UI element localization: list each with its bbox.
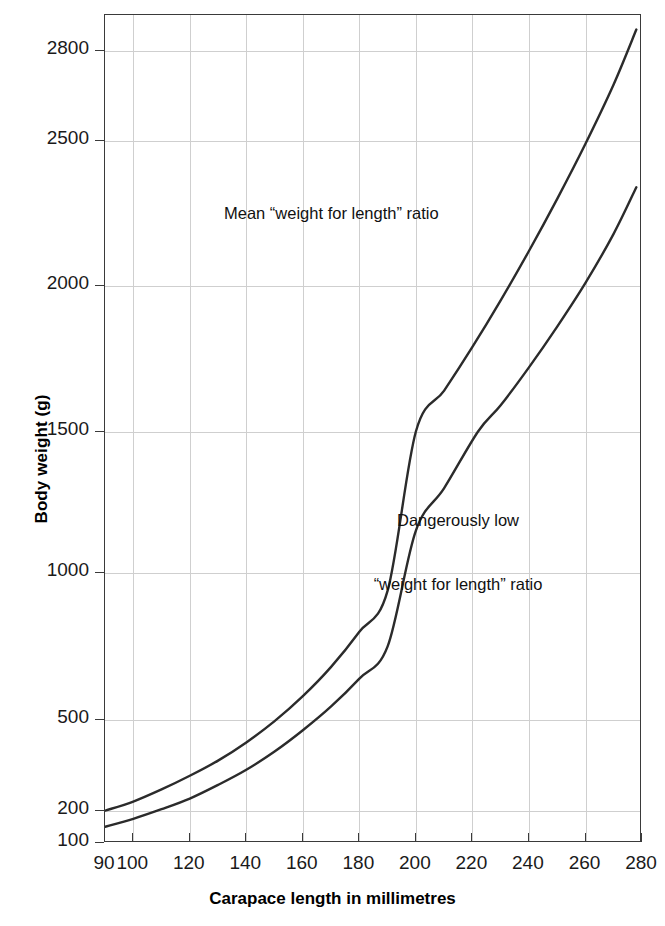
x-tick-label-120: 120 — [173, 852, 205, 874]
y-tick-1000 — [95, 572, 104, 573]
y-tick-label-2800: 2800 — [47, 37, 89, 59]
y-tick-label-1000: 1000 — [47, 559, 89, 581]
y-tick-500 — [95, 719, 104, 720]
y-tick-label-100: 100 — [57, 829, 89, 851]
y-tick-label-2000: 2000 — [47, 272, 89, 294]
x-tick-120 — [189, 833, 190, 842]
x-axis-title: Carapace length in millimetres — [0, 889, 665, 909]
annotation-low-line2: “weight for length” ratio — [374, 574, 543, 595]
x-tick-label-260: 260 — [569, 852, 601, 874]
curve-dangerously-low-ratio — [105, 187, 636, 827]
x-tick-label-90: 90 — [93, 852, 114, 874]
y-tick-label-1500: 1500 — [47, 418, 89, 440]
y-tick-label-2500: 2500 — [47, 127, 89, 149]
y-tick-2800 — [95, 50, 104, 51]
x-tick-240 — [528, 833, 529, 842]
y-tick-label-500: 500 — [57, 706, 89, 728]
y-tick-2000 — [95, 285, 104, 286]
annotation-low-line1: Dangerously low — [374, 510, 543, 531]
x-tick-260 — [585, 833, 586, 842]
x-tick-label-140: 140 — [229, 852, 261, 874]
y-axis-title: Body weight (g) — [32, 329, 52, 589]
x-tick-180 — [358, 833, 359, 842]
x-tick-label-160: 160 — [286, 852, 318, 874]
x-tick-160 — [302, 833, 303, 842]
x-tick-label-280: 280 — [625, 852, 657, 874]
plot-area — [104, 14, 641, 842]
y-tick-label-200: 200 — [57, 797, 89, 819]
x-tick-280 — [641, 833, 642, 842]
x-tick-label-100: 100 — [116, 852, 148, 874]
annotation-mean-ratio: Mean “weight for length” ratio — [224, 203, 439, 224]
annotation-dangerously-low-ratio: Dangerously low “weight for length” rati… — [374, 468, 543, 637]
x-tick-140 — [245, 833, 246, 842]
data-curves — [105, 15, 640, 841]
y-tick-1500 — [95, 431, 104, 432]
x-tick-90 — [104, 833, 105, 842]
x-tick-220 — [471, 833, 472, 842]
x-tick-label-200: 200 — [399, 852, 431, 874]
chart-root: Body weight (g) 100200500100015002000250… — [0, 0, 665, 926]
y-tick-100 — [95, 842, 104, 843]
x-tick-label-220: 220 — [456, 852, 488, 874]
x-tick-200 — [415, 833, 416, 842]
curve-mean-ratio — [105, 30, 636, 811]
y-tick-200 — [95, 810, 104, 811]
plot-inner — [105, 15, 640, 841]
x-tick-label-240: 240 — [512, 852, 544, 874]
y-tick-2500 — [95, 140, 104, 141]
x-tick-label-180: 180 — [343, 852, 375, 874]
x-tick-100 — [132, 833, 133, 842]
